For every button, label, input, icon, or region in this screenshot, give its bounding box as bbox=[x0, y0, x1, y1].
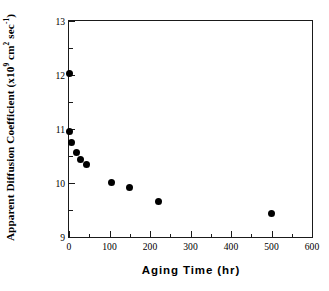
figure-container: Apparent Diffusion Coefficient (x109 cm2… bbox=[0, 0, 329, 291]
y-axis-title-exponent-cm: 2 bbox=[2, 42, 11, 46]
y-minor-tick bbox=[69, 156, 73, 157]
x-tick-100 bbox=[110, 231, 111, 237]
x-tick-label-0: 0 bbox=[67, 241, 72, 252]
data-point bbox=[155, 198, 162, 205]
data-point bbox=[73, 149, 80, 156]
x-tick-200 bbox=[150, 231, 151, 237]
x-tick-label-600: 600 bbox=[305, 241, 319, 252]
data-point bbox=[126, 184, 133, 191]
y-tick-label-11: 11 bbox=[56, 124, 65, 135]
data-point bbox=[108, 179, 115, 186]
x-tick-0 bbox=[69, 231, 70, 237]
x-tick-label-500: 500 bbox=[264, 241, 278, 252]
plot-area: 910111213 0100200300400500600 bbox=[68, 20, 313, 238]
y-axis-title-exponent-sec: -1 bbox=[2, 18, 11, 24]
y-axis-title-close: ) bbox=[4, 14, 16, 18]
y-minor-tick bbox=[69, 48, 73, 49]
y-tick-9 bbox=[69, 237, 75, 238]
x-tick-400 bbox=[231, 231, 232, 237]
x-minor-tick bbox=[130, 234, 131, 238]
x-tick-600 bbox=[312, 231, 313, 237]
data-point bbox=[268, 210, 275, 217]
y-axis-title-exponent-10: 9 bbox=[2, 63, 11, 67]
x-minor-tick bbox=[170, 234, 171, 238]
y-tick-13 bbox=[69, 21, 75, 22]
y-minor-tick bbox=[69, 210, 73, 211]
x-minor-tick bbox=[211, 234, 212, 238]
x-tick-500 bbox=[272, 231, 273, 237]
x-tick-300 bbox=[191, 231, 192, 237]
y-axis-title-lead: Apparent Diffusion Coefficient (x10 bbox=[4, 67, 16, 242]
y-tick-label-12: 12 bbox=[55, 70, 65, 81]
x-tick-label-400: 400 bbox=[224, 241, 238, 252]
data-point bbox=[83, 161, 90, 168]
x-minor-tick bbox=[292, 234, 293, 238]
y-minor-tick bbox=[69, 102, 73, 103]
x-tick-label-200: 200 bbox=[143, 241, 157, 252]
data-point bbox=[68, 139, 75, 146]
x-tick-label-100: 100 bbox=[102, 241, 116, 252]
data-point bbox=[66, 70, 73, 77]
y-tick-label-13: 13 bbox=[55, 16, 65, 27]
x-minor-tick bbox=[89, 234, 90, 238]
x-axis-title: Aging Time (hr) bbox=[68, 264, 314, 276]
y-axis-title-mid: cm bbox=[4, 45, 16, 62]
y-tick-label-9: 9 bbox=[60, 232, 65, 243]
x-minor-tick bbox=[251, 234, 252, 238]
y-axis-title-tail: sec bbox=[4, 24, 16, 41]
y-tick-label-10: 10 bbox=[55, 178, 65, 189]
x-tick-label-300: 300 bbox=[183, 241, 197, 252]
data-point bbox=[66, 128, 73, 135]
y-tick-10 bbox=[69, 183, 75, 184]
y-axis-title: Apparent Diffusion Coefficient (x109 cm2… bbox=[2, 5, 18, 250]
